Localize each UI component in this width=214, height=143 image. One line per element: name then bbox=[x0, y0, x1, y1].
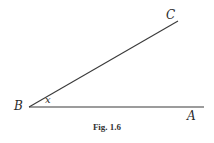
angle-label-x: x bbox=[45, 95, 51, 105]
ray-bc bbox=[29, 21, 178, 107]
point-label-c: C bbox=[166, 9, 175, 21]
point-label-b: B bbox=[14, 100, 23, 112]
point-label-a: A bbox=[187, 110, 196, 122]
geometry-figure: B C A x Fig. 1.6 bbox=[0, 0, 214, 143]
figure-caption: Fig. 1.6 bbox=[0, 122, 214, 132]
